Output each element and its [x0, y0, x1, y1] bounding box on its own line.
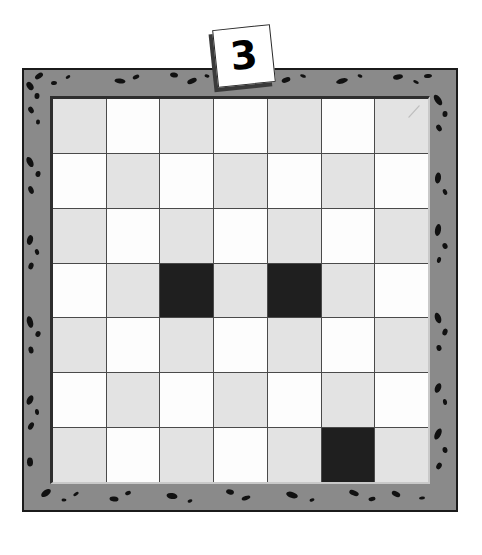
grid-cell-r5c1[interactable] — [53, 318, 106, 372]
grid-cell-r7c1[interactable] — [53, 428, 106, 482]
grid-cell-r4c5[interactable] — [268, 264, 321, 318]
grid-cell-r1c2[interactable] — [107, 99, 160, 153]
grid-cell-r4c7[interactable] — [375, 264, 428, 318]
grid-cell-r6c3[interactable] — [160, 373, 213, 427]
number-tile-value: 3 — [228, 34, 259, 76]
number-tile-card[interactable]: 3 — [212, 24, 276, 88]
grid-cell-r3c3[interactable] — [160, 209, 213, 263]
grid-cell-r7c3[interactable] — [160, 428, 213, 482]
grid-cell-r6c2[interactable] — [107, 373, 160, 427]
grid-cell-r4c1[interactable] — [53, 264, 106, 318]
grid-cell-r6c7[interactable] — [375, 373, 428, 427]
grid-cell-r2c1[interactable] — [53, 154, 106, 208]
grid-cell-r5c7[interactable] — [375, 318, 428, 372]
grid-cell-r1c1[interactable] — [53, 99, 106, 153]
grid-cell-r4c6[interactable] — [322, 264, 375, 318]
grid-cell-r1c4[interactable] — [214, 99, 267, 153]
grid-cell-r3c7[interactable] — [375, 209, 428, 263]
grid-cell-r2c3[interactable] — [160, 154, 213, 208]
grid-cell-r7c7[interactable] — [375, 428, 428, 482]
grid-cell-r3c2[interactable] — [107, 209, 160, 263]
grid-cell-r7c4[interactable] — [214, 428, 267, 482]
grid-cell-r1c3[interactable] — [160, 99, 213, 153]
board-playing-area — [50, 96, 430, 484]
puzzle-board — [22, 68, 458, 512]
grid-cell-r3c6[interactable] — [322, 209, 375, 263]
grid-cell-r2c6[interactable] — [322, 154, 375, 208]
grid-cell-r4c4[interactable] — [214, 264, 267, 318]
grid-cell-r5c5[interactable] — [268, 318, 321, 372]
grid-cell-r7c6[interactable] — [322, 428, 375, 482]
faint-diagonal-pencil-stroke-icon — [408, 105, 421, 118]
grid-cell-r6c5[interactable] — [268, 373, 321, 427]
grid-cell-r7c2[interactable] — [107, 428, 160, 482]
grid-cell-r4c2[interactable] — [107, 264, 160, 318]
grid-cell-r2c2[interactable] — [107, 154, 160, 208]
grid-cell-r6c6[interactable] — [322, 373, 375, 427]
grid-cell-r2c4[interactable] — [214, 154, 267, 208]
grid-cell-r3c1[interactable] — [53, 209, 106, 263]
grid-cell-r5c6[interactable] — [322, 318, 375, 372]
grid-cell-r5c3[interactable] — [160, 318, 213, 372]
grid-cell-r4c3[interactable] — [160, 264, 213, 318]
grid-cell-r7c5[interactable] — [268, 428, 321, 482]
grid-cell-r2c7[interactable] — [375, 154, 428, 208]
grid-cell-r3c4[interactable] — [214, 209, 267, 263]
grid-cell-r5c2[interactable] — [107, 318, 160, 372]
grid-cell-r1c7[interactable] — [375, 99, 428, 153]
grid-cell-r5c4[interactable] — [214, 318, 267, 372]
grid-cell-r6c4[interactable] — [214, 373, 267, 427]
grid-cell-r1c6[interactable] — [322, 99, 375, 153]
grid-cell-r6c1[interactable] — [53, 373, 106, 427]
grid-cell-r3c5[interactable] — [268, 209, 321, 263]
checker-grid[interactable] — [53, 99, 428, 482]
grid-cell-r1c5[interactable] — [268, 99, 321, 153]
grid-cell-r2c5[interactable] — [268, 154, 321, 208]
